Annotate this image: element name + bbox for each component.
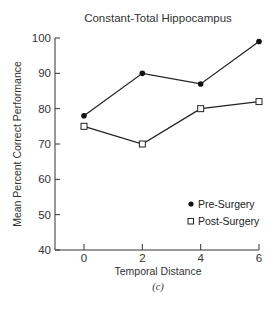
open-square-marker-icon xyxy=(81,123,87,129)
filled-circle-marker-icon xyxy=(140,71,146,77)
x-tick-label: 0 xyxy=(81,252,87,264)
open-square-marker-icon xyxy=(198,106,204,112)
filled-circle-marker-icon xyxy=(81,113,87,119)
x-axis-label: Temporal Distance xyxy=(115,265,202,277)
y-tick-label: 70 xyxy=(38,138,51,150)
x-tick-label: 4 xyxy=(197,252,204,264)
y-axis: 405060708090100 Mean Percent Correct Per… xyxy=(11,32,60,256)
y-tick-label: 40 xyxy=(38,244,51,256)
open-square-marker-icon xyxy=(256,99,262,105)
open-square-marker-icon xyxy=(139,141,145,147)
series-line xyxy=(84,102,259,144)
series-post-surgery xyxy=(81,99,262,147)
y-tick-label: 90 xyxy=(38,67,51,79)
figure-caption: (c) xyxy=(152,281,164,293)
filled-circle-marker-icon xyxy=(188,201,193,206)
legend-item-pre-surgery: Pre-Surgery xyxy=(188,198,255,210)
x-tick-label: 6 xyxy=(256,252,262,264)
plot-area xyxy=(81,39,262,147)
open-square-marker-icon xyxy=(188,219,194,225)
x-axis: 0246 Temporal Distance (c) xyxy=(55,244,262,293)
legend-item-post-surgery: Post-Surgery xyxy=(188,215,260,227)
y-tick-label: 80 xyxy=(38,103,51,115)
filled-circle-marker-icon xyxy=(256,39,262,45)
legend-label: Post-Surgery xyxy=(198,215,260,227)
x-tick-label: 2 xyxy=(139,252,145,264)
line-chart: Constant-Total Hippocampus 4050607080901… xyxy=(0,0,276,312)
chart-title: Constant-Total Hippocampus xyxy=(84,12,232,24)
series-pre-surgery xyxy=(81,39,262,119)
legend: Pre-Surgery Post-Surgery xyxy=(188,198,260,227)
filled-circle-marker-icon xyxy=(198,81,204,87)
legend-label: Pre-Surgery xyxy=(198,198,255,210)
y-tick-label: 50 xyxy=(38,209,51,221)
y-axis-label: Mean Percent Correct Performance xyxy=(11,61,23,227)
y-tick-label: 100 xyxy=(32,32,51,44)
y-tick-label: 60 xyxy=(38,173,51,185)
